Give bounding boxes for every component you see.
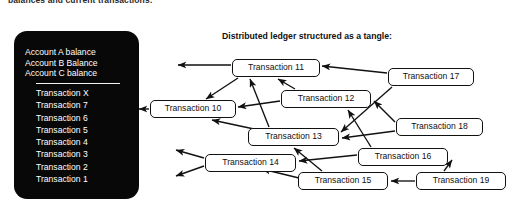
node-transaction-12[interactable]: Transaction 12 — [281, 90, 371, 108]
node-transaction-11[interactable]: Transaction 11 — [232, 59, 320, 77]
edge-tx14-exit-left-lower — [176, 166, 204, 176]
tangle-diagram: Distributed ledger structured as a tangl… — [0, 0, 518, 217]
node-transaction-14[interactable]: Transaction 14 — [205, 154, 296, 172]
screenshot-canvas: balances and current transactions: Accou… — [0, 0, 518, 217]
node-transaction-13[interactable]: Transaction 13 — [248, 128, 339, 146]
node-transaction-15[interactable]: Transaction 15 — [298, 172, 388, 190]
node-transaction-16[interactable]: Transaction 16 — [358, 148, 448, 166]
edge-tx12-tx11 — [278, 79, 295, 89]
edge-tx18-tx12 — [374, 101, 395, 122]
edge-tx11-tx10 — [206, 78, 238, 99]
edge-tx13-tx10 — [212, 120, 254, 129]
node-transaction-10[interactable]: Transaction 10 — [150, 100, 236, 118]
node-transaction-18[interactable]: Transaction 18 — [396, 118, 483, 136]
node-transaction-17[interactable]: Transaction 17 — [388, 68, 474, 86]
edge-tx17-tx11 — [322, 66, 387, 73]
edge-tx18-tx13 — [342, 131, 395, 138]
edge-tx14-exit-left-upper — [176, 150, 204, 158]
node-transaction-19[interactable]: Transaction 19 — [416, 172, 506, 190]
